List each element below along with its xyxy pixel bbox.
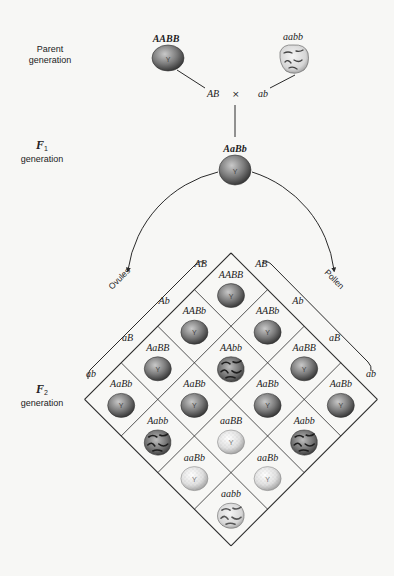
svg-text:Y: Y — [192, 476, 197, 483]
cell-genotype: AaBb — [182, 378, 205, 389]
svg-text:Y: Y — [265, 476, 270, 483]
parent1-genotype: AABB — [152, 33, 180, 44]
parent1-gamete-line — [177, 70, 205, 88]
parent2-gamete-label: ab — [258, 88, 268, 99]
cell-genotype: AaBb — [329, 378, 352, 389]
pollen-label: Pollen — [323, 267, 347, 291]
punnett-cell: AaBBY — [291, 342, 318, 381]
punnett-cell: aaBbY — [254, 452, 281, 491]
svg-text:Y: Y — [229, 293, 234, 300]
cell-genotype: Aabb — [293, 415, 315, 426]
svg-text:Y: Y — [229, 439, 234, 446]
punnett-cell: Aabb — [144, 415, 171, 455]
cell-genotype: Aabb — [146, 415, 168, 426]
punnett-cell: AAbb — [218, 342, 245, 382]
f1-genotype: AaBb — [222, 143, 246, 154]
punnett-cell: AaBbY — [254, 378, 281, 417]
parent2-gamete-line — [270, 75, 295, 88]
parent2-seed: aabb — [280, 31, 309, 73]
punnett-cell: aaBbY — [181, 452, 208, 491]
punnett-cell: AaBbY — [108, 378, 135, 417]
cell-genotype: AABb — [182, 305, 206, 316]
punnett-cell: AABBY — [218, 269, 245, 308]
svg-text:Y: Y — [265, 329, 270, 336]
parent2-genotype: aabb — [283, 31, 303, 42]
pollen-arrow — [252, 172, 334, 270]
svg-text:Y: Y — [166, 56, 171, 63]
cell-genotype: AaBb — [109, 378, 132, 389]
cross-symbol: × — [232, 89, 240, 99]
cell-genotype: AABB — [218, 269, 243, 280]
pollen-gamete-label: Ab — [291, 295, 303, 306]
svg-text:Y: Y — [192, 402, 197, 409]
parent-cross: AB × ab — [177, 70, 295, 137]
ovule-gamete-label: Ab — [158, 295, 170, 306]
punnett-cell: Aabb — [291, 415, 318, 455]
ovules-arrow — [128, 172, 218, 270]
cell-genotype: AaBB — [145, 342, 169, 353]
pollen-gamete-label: AB — [254, 258, 267, 269]
punnett-cell: AaBbY — [327, 378, 354, 417]
punnett-cell: aaBBY — [218, 415, 245, 454]
punnett-cell: AaBbY — [181, 378, 208, 417]
ovule-gamete-label: ab — [86, 368, 96, 379]
punnett-cell: AaBBY — [144, 342, 171, 381]
svg-text:Y: Y — [233, 168, 238, 175]
cell-genotype: aabb — [221, 488, 241, 499]
green-wrinkled-seed-icon — [280, 45, 309, 73]
svg-text:Y: Y — [119, 402, 124, 409]
punnett-cell: aabb — [218, 488, 245, 528]
ovules-bracket — [88, 262, 205, 379]
pollen-gamete-label: ab — [366, 368, 376, 379]
cell-genotype: AAbb — [219, 342, 242, 353]
pollen-gamete-label: aB — [329, 332, 340, 343]
cell-genotype: aaBb — [184, 452, 205, 463]
svg-text:Y: Y — [192, 329, 197, 336]
ovules-label: Ovules — [106, 266, 132, 292]
ovule-gamete-label: AB — [194, 258, 207, 269]
cell-genotype: aaBB — [220, 415, 242, 426]
punnett-square: AABBYAABbYAaBBYAaBbYAABbYAAbbAaBbYAabbAa… — [85, 253, 378, 546]
pollen-bracket — [262, 262, 371, 371]
svg-text:Y: Y — [338, 402, 343, 409]
parent1-gamete-label: AB — [206, 88, 219, 99]
dihybrid-cross-diagram: Parent generation F1 generation F2 gener… — [0, 0, 394, 576]
punnett-cell: AABbY — [181, 305, 208, 344]
svg-text:Y: Y — [265, 402, 270, 409]
cell-genotype: AaBb — [255, 378, 278, 389]
parent1-seed: AABB Y — [152, 33, 184, 71]
svg-text:Y: Y — [155, 366, 160, 373]
cell-genotype: aaBb — [257, 452, 278, 463]
cell-genotype: AABb — [255, 305, 279, 316]
punnett-cell: AABbY — [254, 305, 281, 344]
svg-text:Y: Y — [302, 366, 307, 373]
diagram-canvas: AB × ab AABB Y aabb AaBb Y Ovules Pollen — [0, 0, 394, 576]
cell-genotype: AaBB — [292, 342, 316, 353]
f1-seed: AaBb Y — [128, 143, 334, 270]
ovule-gamete-label: aB — [122, 332, 133, 343]
